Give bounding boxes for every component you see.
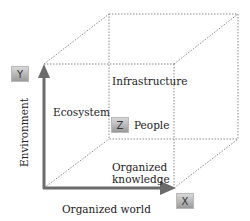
x-axis-box: X xyxy=(176,193,194,209)
x-axis-label: Organized world xyxy=(62,203,151,215)
y-axis-label: Environment xyxy=(18,107,30,167)
ecosystem-label: Ecosystem xyxy=(53,106,110,118)
organized-knowledge-line1: Organized xyxy=(112,161,167,173)
y-axis-box: Y xyxy=(11,66,29,82)
organized-knowledge-line2: knowledge xyxy=(112,173,170,185)
y-axis-arrow xyxy=(38,64,50,189)
infrastructure-label: Infrastructure xyxy=(112,75,188,87)
cube-wireframe xyxy=(0,0,250,221)
z-axis-box: Z xyxy=(111,117,129,133)
z-axis-label: People xyxy=(134,119,169,131)
